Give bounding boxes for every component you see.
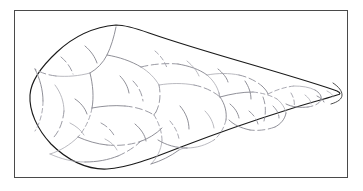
screenshot-canvas: Line drawing of a teardrop-shaped flaked… xyxy=(0,0,363,191)
artifact-outline-group xyxy=(30,25,342,169)
flake-scar-line xyxy=(179,148,187,150)
artifact-outline-path xyxy=(30,25,340,169)
flake-scar-line xyxy=(250,127,275,130)
lithic-artifact-drawing xyxy=(15,11,349,179)
flake-scar-line xyxy=(275,113,286,127)
figure-frame xyxy=(14,10,348,178)
